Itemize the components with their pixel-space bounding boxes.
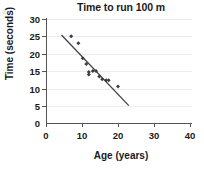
- scatter-plot-canvas: [0, 0, 204, 178]
- data-point: [107, 78, 111, 82]
- data-point: [100, 77, 104, 81]
- data-points-group: [69, 34, 120, 88]
- data-point: [116, 85, 120, 89]
- data-point: [97, 75, 101, 79]
- chart-figure: a Time to run 100 m Time (seconds) Age (…: [0, 0, 204, 178]
- data-point: [87, 72, 91, 76]
- data-point: [76, 41, 80, 45]
- data-point: [69, 34, 73, 38]
